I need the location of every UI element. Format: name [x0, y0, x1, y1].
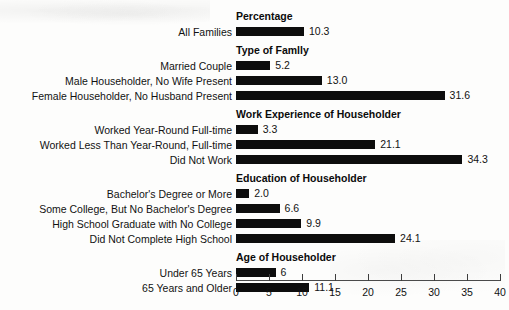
bar-value-label: 9.9: [306, 217, 321, 229]
x-axis-tick: [236, 274, 237, 281]
bar-category-label: Bachelor's Degree or More: [0, 188, 232, 200]
bar: [236, 91, 445, 100]
chart-row: Under 65 Years6: [0, 267, 509, 281]
x-axis-tick: [302, 274, 303, 281]
bar-value-label: 2.0: [254, 187, 269, 199]
chart-row: Bachelor's Degree or More2.0: [0, 188, 509, 202]
bar-value-label: 5.2: [275, 59, 290, 71]
bar: [236, 27, 304, 36]
x-axis-tick: [467, 274, 468, 281]
chart-row: Did Not Complete High School24.1: [0, 233, 509, 247]
section-header: Age of Householder: [236, 251, 336, 263]
bar-category-label: All Families: [0, 26, 232, 38]
bar-category-label: Female Householder, No Husband Present: [0, 90, 232, 102]
x-axis-tick-label: 10: [296, 286, 308, 298]
bar: [236, 204, 280, 213]
x-axis-tick-label: 25: [395, 286, 407, 298]
chart-row: Married Couple5.2: [0, 60, 509, 74]
bar-value-label: 31.6: [450, 89, 470, 101]
chart-row: Worked Year-Round Full-time3.3: [0, 124, 509, 138]
bar-value-label: 13.0: [327, 74, 347, 86]
section-header: Work Experience of Householder: [236, 108, 401, 120]
x-axis-tick: [368, 274, 369, 281]
chart-row: Did Not Work34.3: [0, 154, 509, 168]
chart-row: Worked Less Than Year-Round, Full-time21…: [0, 139, 509, 153]
bar-value-label: 3.3: [263, 123, 278, 135]
section-header: Percentage: [236, 10, 293, 22]
x-axis-tick-label: 40: [494, 286, 506, 298]
x-axis-tick-label: 35: [461, 286, 473, 298]
bar: [236, 140, 375, 149]
bar: [236, 155, 462, 164]
bar: [236, 61, 270, 70]
bar-category-label: High School Graduate with No College: [0, 218, 232, 230]
x-axis-tick-label: 15: [329, 286, 341, 298]
bar-category-label: Married Couple: [0, 60, 232, 72]
bar: [236, 219, 301, 228]
bar-value-label: 34.3: [467, 153, 487, 165]
bar-value-label: 6.6: [285, 202, 300, 214]
bar: [236, 76, 322, 85]
chart-row: Female Householder, No Husband Present31…: [0, 90, 509, 104]
chart-row: High School Graduate with No College9.9: [0, 218, 509, 232]
bar-category-label: Did Not Complete High School: [0, 233, 232, 245]
x-axis-tick-label: 0: [233, 286, 239, 298]
bar-category-label: 65 Years and Older: [0, 282, 232, 294]
bar-value-label: 10.3: [309, 25, 329, 37]
bar-category-label: Did Not Work: [0, 154, 232, 166]
bar-category-label: Worked Year-Round Full-time: [0, 124, 232, 136]
x-axis-tick-label: 5: [266, 286, 272, 298]
bar-category-label: Under 65 Years: [0, 267, 232, 279]
section-header: Type of Famlly: [236, 44, 309, 56]
bar: [236, 125, 258, 134]
section-header: Education of Householder: [236, 172, 367, 184]
x-axis-tick: [335, 274, 336, 281]
bar-category-label: Some College, But No Bachelor's Degree: [0, 203, 232, 215]
bar-value-label: 21.1: [380, 138, 400, 150]
chart-row: Male Householder, No Wife Present13.0: [0, 75, 509, 89]
horizontal-bar-chart: PercentageAll Families10.3Type of Famlly…: [0, 0, 509, 310]
bar: [236, 234, 395, 243]
x-axis-tick: [401, 274, 402, 281]
x-axis-tick: [434, 274, 435, 281]
chart-row: Some College, But No Bachelor's Degree6.…: [0, 203, 509, 217]
x-axis-tick: [269, 274, 270, 281]
chart-row: All Families10.3: [0, 26, 509, 40]
x-axis-tick: [500, 274, 501, 281]
x-axis-tick-label: 20: [362, 286, 374, 298]
bar-value-label: 24.1: [400, 232, 420, 244]
x-axis-tick-label: 30: [428, 286, 440, 298]
bar: [236, 189, 249, 198]
bar-value-label: 6: [281, 266, 287, 278]
bar-category-label: Worked Less Than Year-Round, Full-time: [0, 139, 232, 151]
bar-category-label: Male Householder, No Wife Present: [0, 75, 232, 87]
